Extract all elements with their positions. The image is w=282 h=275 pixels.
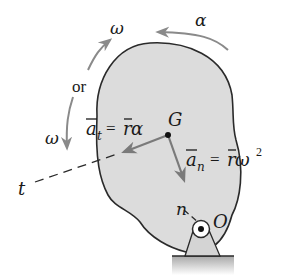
svg-text:α: α	[131, 118, 143, 139]
O-label: O	[213, 211, 228, 232]
svg-text:a: a	[186, 149, 197, 170]
rigid-body-diagram: ω α or ω G O t n a t = r α a n = r ω 2	[0, 0, 282, 275]
n-label: n	[176, 199, 187, 219]
svg-text:2: 2	[256, 145, 262, 159]
alpha-label: α	[195, 10, 207, 30]
t-label: t	[18, 178, 26, 199]
ground-base	[172, 256, 234, 275]
svg-text:=: =	[106, 119, 116, 138]
omega-arc-arrow-top	[88, 40, 110, 70]
or-label: or	[72, 77, 87, 96]
omega-arc-arrow-left	[67, 97, 73, 148]
svg-text:ω: ω	[235, 149, 250, 170]
svg-text:t: t	[97, 129, 102, 143]
svg-text:=: =	[210, 150, 220, 169]
svg-text:a: a	[86, 118, 97, 139]
G-label: G	[168, 109, 182, 130]
svg-text:n: n	[197, 160, 205, 174]
mass-center-dot	[165, 132, 171, 138]
pivot-pin-dot	[198, 226, 204, 232]
omega-label-top: ω	[110, 18, 124, 38]
omega-label-left: ω	[45, 128, 59, 148]
